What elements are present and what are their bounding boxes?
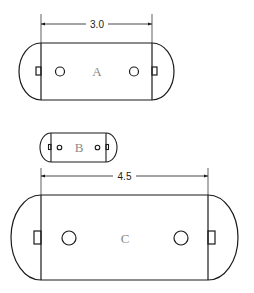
label-c: C [121, 231, 130, 246]
tab-left [49, 145, 52, 150]
tab-left [36, 67, 41, 75]
tab-right [208, 231, 215, 244]
label-b: B [75, 140, 84, 155]
hole-right [174, 231, 188, 245]
tab-left [34, 231, 41, 244]
tab-right [106, 145, 109, 150]
hole-right [95, 145, 100, 150]
dimension-c: 4.5 [118, 171, 132, 182]
dimension-a: 3.0 [90, 19, 104, 30]
tab-right [152, 67, 157, 75]
drawing-canvas: 3.0 A B 4.5 C [0, 0, 254, 293]
hole-left [57, 145, 62, 150]
part-c [11, 168, 238, 280]
hole-left [56, 67, 65, 76]
hole-left [62, 231, 76, 245]
label-a: A [92, 64, 102, 79]
hole-right [130, 67, 139, 76]
